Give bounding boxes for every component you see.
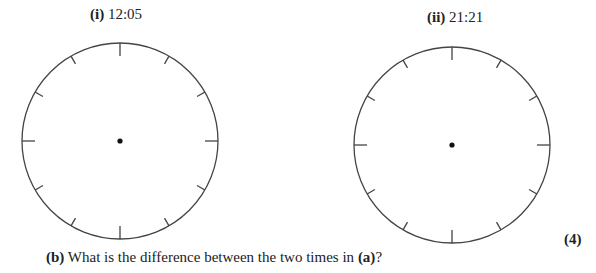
question-end: ? — [375, 249, 382, 265]
marks-label: (4) — [564, 231, 582, 248]
question-b: (b) What is the difference between the t… — [46, 249, 382, 266]
clock-2-face — [354, 47, 550, 243]
question-text: What is the difference between the two t… — [64, 249, 358, 265]
question-ref: (a) — [358, 249, 376, 265]
clock-1-face — [22, 43, 218, 239]
question-part: (b) — [46, 249, 64, 265]
clock-faces — [0, 0, 596, 273]
